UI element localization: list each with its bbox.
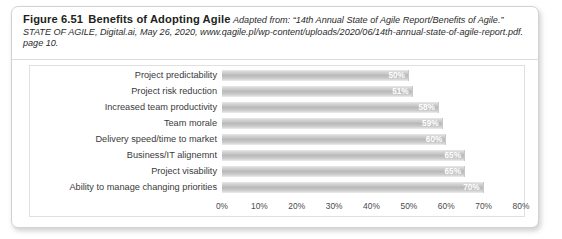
bar-track: 50% bbox=[222, 70, 521, 81]
bar-category-label: Delivery speed/time to market bbox=[37, 133, 217, 145]
x-axis-tick-label: 80% bbox=[513, 200, 530, 212]
figure-card: Figure 6.51 Benefits of Adopting Agile A… bbox=[11, 6, 539, 228]
x-axis-tick-label: 50% bbox=[400, 200, 417, 212]
figure-number: Figure 6.51 bbox=[23, 13, 83, 25]
bar-row: Project visability65% bbox=[30, 165, 526, 181]
bar-value-label: 70% bbox=[463, 182, 479, 193]
bar-track: 65% bbox=[222, 150, 521, 161]
bar-track: 51% bbox=[222, 86, 521, 97]
x-axis-tick-label: 0% bbox=[216, 200, 228, 212]
x-axis-tick-label: 60% bbox=[438, 200, 455, 212]
bar: 50% bbox=[222, 70, 409, 81]
bar-row: Increased team productivity58% bbox=[30, 101, 526, 117]
bar-value-label: 58% bbox=[418, 102, 434, 113]
bar-value-label: 65% bbox=[445, 150, 461, 161]
bar-track: 59% bbox=[222, 118, 521, 129]
bar-value-label: 65% bbox=[445, 166, 461, 177]
bar-category-label: Increased team productivity bbox=[37, 101, 217, 113]
x-axis-tick-label: 30% bbox=[326, 200, 343, 212]
bar: 65% bbox=[222, 166, 465, 177]
x-axis: 0%10%20%30%40%50%60%70%80% bbox=[222, 200, 521, 214]
bar-category-label: Team morale bbox=[37, 117, 217, 129]
bar: 65% bbox=[222, 150, 465, 161]
bar-row: Team morale59% bbox=[30, 117, 526, 133]
bar-row: Ability to manage changing priorities70% bbox=[30, 181, 526, 197]
bar-category-label: Business/IT alignemnt bbox=[37, 149, 217, 161]
bar-value-label: 60% bbox=[426, 134, 442, 145]
bar-value-label: 50% bbox=[388, 70, 404, 81]
figure-title: Benefits of Adopting Agile bbox=[88, 13, 230, 25]
bar-rows: Project predictability50%Project risk re… bbox=[30, 69, 526, 197]
bar-row: Project risk reduction51% bbox=[30, 85, 526, 101]
bar-category-label: Ability to manage changing priorities bbox=[37, 181, 217, 193]
bar: 70% bbox=[222, 182, 484, 193]
caption-divider bbox=[12, 59, 539, 60]
bar-track: 70% bbox=[222, 182, 521, 193]
bar-value-label: 51% bbox=[392, 86, 408, 97]
bar-track: 58% bbox=[222, 102, 521, 113]
x-axis-tick-label: 70% bbox=[475, 200, 492, 212]
bar-track: 65% bbox=[222, 166, 521, 177]
bar-row: Business/IT alignemnt65% bbox=[30, 149, 526, 165]
bar: 51% bbox=[222, 86, 413, 97]
chart-plot-area: Project predictability50%Project risk re… bbox=[29, 65, 525, 217]
bar: 59% bbox=[222, 118, 443, 129]
figure-caption: Figure 6.51 Benefits of Adopting Agile A… bbox=[23, 14, 529, 50]
bar-track: 60% bbox=[222, 134, 521, 145]
bar-row: Delivery speed/time to market60% bbox=[30, 133, 526, 149]
x-axis-tick-label: 40% bbox=[363, 200, 380, 212]
bar-category-label: Project predictability bbox=[37, 69, 217, 81]
bar: 58% bbox=[222, 102, 439, 113]
x-axis-tick-label: 20% bbox=[288, 200, 305, 212]
bar-category-label: Project visability bbox=[37, 165, 217, 177]
bar: 60% bbox=[222, 134, 446, 145]
x-axis-tick-label: 10% bbox=[251, 200, 268, 212]
bar-value-label: 59% bbox=[422, 118, 438, 129]
bar-category-label: Project risk reduction bbox=[37, 85, 217, 97]
bar-row: Project predictability50% bbox=[30, 69, 526, 85]
